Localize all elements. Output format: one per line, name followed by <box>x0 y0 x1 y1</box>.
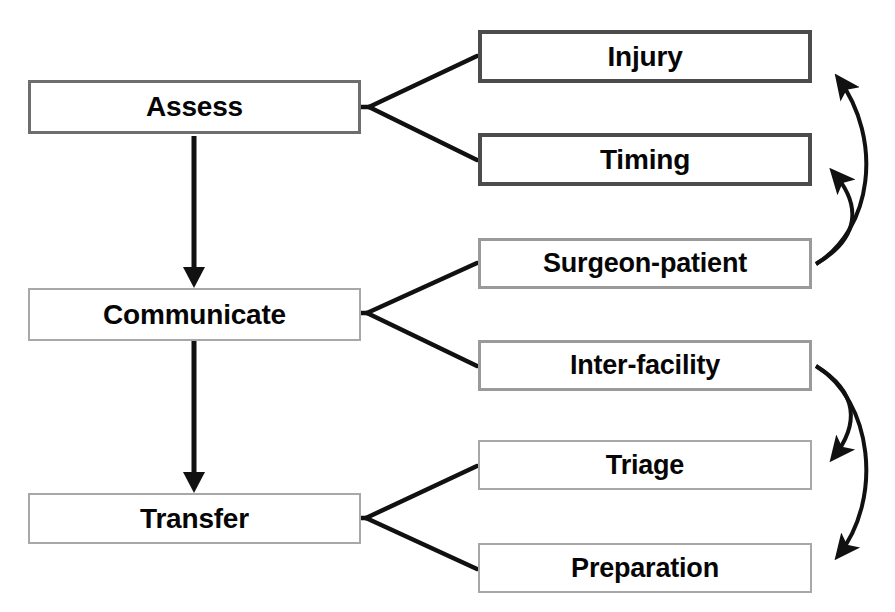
node-communicate-label: Communicate <box>103 301 286 329</box>
node-surgeon-patient[interactable]: Surgeon-patient <box>478 238 812 289</box>
node-transfer[interactable]: Transfer <box>28 493 361 544</box>
node-triage-label: Triage <box>606 452 684 479</box>
feedback-arrow-surgeon-patient-to-timing <box>816 172 852 264</box>
feedback-arrow-inter-facility-to-preparation <box>816 366 866 556</box>
node-timing[interactable]: Timing <box>478 133 812 186</box>
node-transfer-label: Transfer <box>140 505 249 533</box>
node-timing-label: Timing <box>600 146 690 174</box>
node-communicate[interactable]: Communicate <box>28 288 361 341</box>
node-assess-label: Assess <box>146 93 243 121</box>
fork-communicate <box>361 263 477 366</box>
diagram-canvas: Assess Communicate Transfer Injury Timin… <box>0 0 895 612</box>
feedback-arrow-surgeon-patient-to-injury <box>816 78 866 264</box>
node-injury[interactable]: Injury <box>478 30 812 83</box>
arrowhead-transfer <box>183 472 205 493</box>
node-triage[interactable]: Triage <box>478 440 812 490</box>
node-preparation-label: Preparation <box>571 555 719 582</box>
fork-assess <box>361 56 477 160</box>
node-inter-facility-label: Inter-facility <box>570 352 720 379</box>
fork-transfer <box>361 466 477 569</box>
node-surgeon-patient-label: Surgeon-patient <box>543 250 747 277</box>
node-preparation[interactable]: Preparation <box>478 543 812 593</box>
node-assess[interactable]: Assess <box>28 80 361 134</box>
node-inter-facility[interactable]: Inter-facility <box>478 340 812 391</box>
arrowhead-communicate <box>183 267 205 288</box>
node-injury-label: Injury <box>607 43 682 71</box>
